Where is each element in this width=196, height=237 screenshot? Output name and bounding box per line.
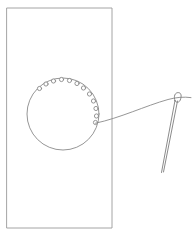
stitch-hole <box>75 81 79 85</box>
stitch-hole <box>94 114 98 118</box>
stitch-hole <box>44 82 48 86</box>
stitch-hole <box>91 99 95 103</box>
stitch-hole <box>51 79 55 83</box>
needle-shaft-left-edge <box>162 101 176 173</box>
sewing-needle-group <box>162 93 182 173</box>
illustration-canvas: Sewing diagram: circular stitch-hole pat… <box>0 0 196 237</box>
stitch-hole <box>87 92 91 96</box>
stitch-hole <box>37 86 41 90</box>
needle-shaft-right-edge <box>164 101 178 172</box>
stitch-holes-group <box>37 77 98 124</box>
stitch-hole <box>59 77 63 81</box>
stitch-hole <box>81 86 85 90</box>
line-art-figure: Sewing diagram: circular stitch-hole pat… <box>0 0 196 237</box>
stitch-hole <box>94 106 98 110</box>
stitch-hole <box>67 78 71 82</box>
thread-line <box>96 97 192 123</box>
